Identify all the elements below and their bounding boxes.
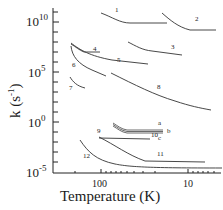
y-axis-ticks xyxy=(53,12,59,162)
curve-label-4: 4 xyxy=(93,45,97,53)
x-axis-ticks xyxy=(75,169,214,173)
curve-label-9b: b xyxy=(167,127,171,135)
y-tick-1e10: 1010 xyxy=(26,12,48,30)
curve-10 xyxy=(99,138,150,139)
curve-label-11: 11 xyxy=(157,150,164,158)
curve-label-9c: c xyxy=(158,134,161,142)
y-tick-1e0: 100 xyxy=(28,113,46,131)
curve-label-8: 8 xyxy=(157,83,161,91)
curve-12 xyxy=(80,140,222,168)
curve-label-12: 12 xyxy=(83,152,90,160)
curve-label-7: 7 xyxy=(69,84,73,92)
curve-label-5: 5 xyxy=(117,56,121,64)
curve-2 xyxy=(162,13,216,30)
curve-8 xyxy=(111,73,211,110)
curve-label-3: 3 xyxy=(171,43,175,51)
curve-6 xyxy=(71,46,106,76)
curve-label-2: 2 xyxy=(195,15,199,23)
curve-label-10: 10 xyxy=(151,131,158,139)
y-tick-1e5: 105 xyxy=(28,63,46,81)
curve-label-9a: a xyxy=(158,119,161,127)
curve-label-1: 1 xyxy=(115,6,119,14)
y-axis-label: k (s-1) xyxy=(6,83,24,118)
curve-1 xyxy=(101,13,167,23)
x-tick-10: 10 xyxy=(183,178,193,189)
x-axis-label: Temperature (K) xyxy=(60,188,160,205)
curve-label-9: 9 xyxy=(97,127,101,135)
curve-label-6: 6 xyxy=(72,61,76,69)
curve-11 xyxy=(99,137,205,162)
y-tick-1e-5: 10-5 xyxy=(26,163,47,181)
